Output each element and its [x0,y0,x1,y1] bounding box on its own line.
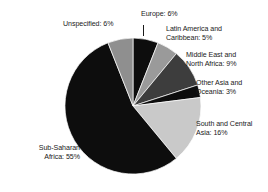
slice-label-middle-east-and-north-africa: Middle East and North Africa: 9% [186,51,236,69]
slice-label-south-and-central-asia: South and Central Asia: 16% [196,120,252,138]
slice-label-sub-saharan-africa: Sub-Saharan Africa: 55% [6,144,80,162]
slice-label-latin-america-and-caribbean: Latin America and Caribbean: 5% [166,25,222,43]
slice-label-other-asia-and-oceania: Other Asia and Oceania: 3% [196,79,242,97]
slice-label-europe: Europe: 6% [141,10,178,19]
pie-chart: Europe: 6% Latin America and Caribbean: … [0,0,268,192]
slice-label-unspecified: Unspecified: 6% [63,20,114,29]
leader-line-europe [143,25,144,36]
